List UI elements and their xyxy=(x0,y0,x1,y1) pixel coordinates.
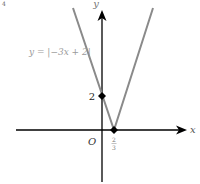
y-tick-label: 2 xyxy=(89,91,95,102)
x-axis-label: x xyxy=(190,124,196,135)
origin-label: O xyxy=(88,136,96,147)
corner-mark: 4 xyxy=(2,0,6,7)
y-axis-label: y xyxy=(92,0,99,9)
graph: y x O 2 2 3 y = |−3x + 2| 4 xyxy=(0,0,200,184)
function-label: y = |−3x + 2| xyxy=(28,47,91,58)
x-fraction-denominator: 3 xyxy=(112,144,116,151)
function-graph xyxy=(73,8,153,130)
point-y-intercept xyxy=(98,92,106,100)
x-fraction-numerator: 2 xyxy=(112,136,116,143)
point-x-intercept xyxy=(110,126,118,134)
